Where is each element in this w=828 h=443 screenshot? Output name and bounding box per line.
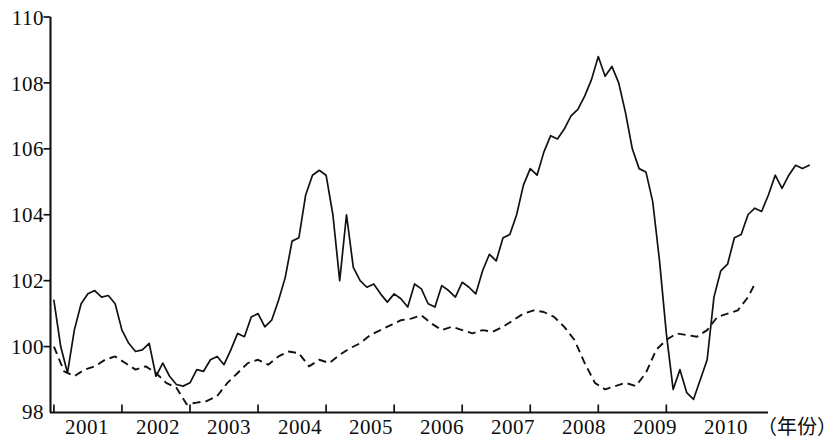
- x-tick-label-2007: 2007: [478, 417, 548, 438]
- x-tick-label-2003: 2003: [194, 417, 264, 438]
- x-axis-tick-labels: 2001 2002 2003 2004 2005 2006 2007 2008 …: [0, 417, 816, 443]
- x-tick-label-2010: 2010: [691, 417, 761, 438]
- x-tick-label-2004: 2004: [265, 417, 335, 438]
- x-tick-label-2002: 2002: [123, 417, 193, 438]
- axes: [44, 17, 769, 413]
- series-line-solid: [54, 57, 809, 400]
- x-axis-ticks: [54, 405, 666, 413]
- x-tick-label-2001: 2001: [52, 417, 122, 438]
- x-tick-label-2006: 2006: [407, 417, 477, 438]
- x-tick-label-2005: 2005: [336, 417, 406, 438]
- x-tick-label-2009: 2009: [620, 417, 690, 438]
- x-axis-unit-label: （年份）: [757, 417, 828, 438]
- x-tick-label-2008: 2008: [549, 417, 619, 438]
